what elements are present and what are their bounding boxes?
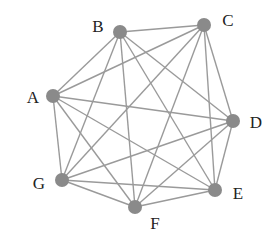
graph-svg [0, 0, 272, 247]
node-label-F: F [150, 215, 159, 232]
node-label-C: C [222, 12, 233, 29]
edge-D-G [62, 121, 233, 180]
edge-C-G [62, 25, 204, 180]
edge-A-F [53, 96, 135, 207]
node-label-G: G [33, 175, 45, 192]
node-F [128, 200, 142, 214]
node-G [55, 173, 69, 187]
edge-A-E [53, 96, 215, 190]
node-B [113, 25, 127, 39]
edge-E-F [135, 190, 215, 207]
node-label-D: D [250, 114, 262, 131]
node-D [226, 114, 240, 128]
node-label-A: A [27, 89, 39, 106]
edge-C-E [204, 25, 215, 190]
node-C [197, 18, 211, 32]
edge-B-E [120, 32, 215, 190]
edge-C-D [204, 25, 233, 121]
edge-D-E [215, 121, 233, 190]
node-A [46, 89, 60, 103]
edge-A-B [53, 32, 120, 96]
edges-layer [53, 25, 233, 207]
node-label-E: E [233, 185, 243, 202]
node-label-B: B [92, 18, 103, 35]
edge-A-G [53, 96, 62, 180]
node-E [208, 183, 222, 197]
graph-diagram: ABCDEFG [0, 0, 272, 247]
